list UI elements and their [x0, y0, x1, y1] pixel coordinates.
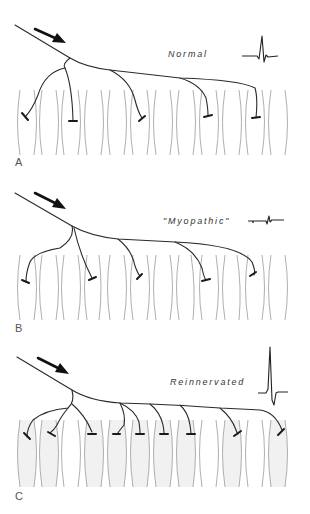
direction-arrow-icon [35, 193, 66, 209]
motor-unit-diagram: Normal A [0, 0, 310, 514]
panel-label: "Myopathic" [163, 216, 230, 226]
normal-muap-waveform [242, 36, 278, 62]
panel-letter: C [15, 490, 23, 502]
panel-letter: A [15, 156, 23, 168]
direction-arrow-icon [38, 358, 69, 374]
panel-a: Normal A [15, 25, 288, 168]
direction-arrow-icon [35, 29, 66, 43]
muscle-fibers [18, 255, 288, 320]
reinnervated-muap-waveform [258, 347, 288, 405]
motor-axon [15, 193, 255, 282]
muscle-fibers [18, 90, 288, 155]
panel-label: Reinnervated [170, 377, 245, 387]
myopathic-muap-waveform [248, 216, 284, 224]
muscle-fibers-shaded [18, 420, 288, 487]
motor-axon [15, 25, 257, 120]
panel-label: Normal [168, 49, 208, 59]
panel-c: Reinnervated C [15, 347, 288, 502]
panel-b: "Myopathic" B [15, 193, 288, 334]
panel-letter: B [15, 322, 22, 334]
endplates [22, 272, 256, 283]
